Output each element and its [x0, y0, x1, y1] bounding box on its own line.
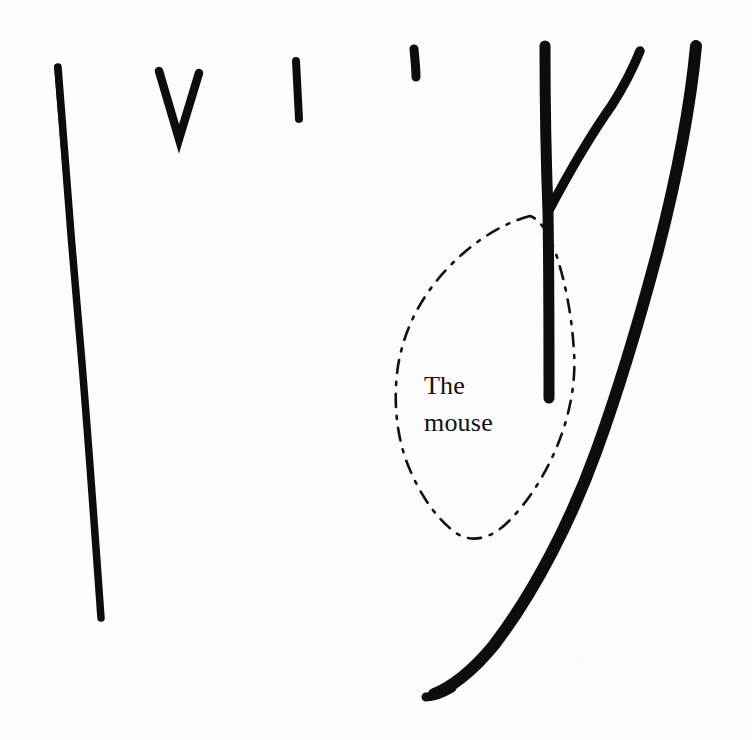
apostrophe-mark: [414, 49, 416, 77]
branching-y-stroke-main: [545, 46, 549, 398]
sketch-page: The mouse: [0, 0, 752, 740]
short-tick-mark: [296, 61, 299, 119]
hand-drawn-sketch-canvas: [0, 0, 752, 740]
paper-grain-texture: [0, 0, 752, 740]
annotation-label-line2: mouse: [424, 408, 493, 438]
annotation-label-line1: The: [424, 371, 465, 401]
